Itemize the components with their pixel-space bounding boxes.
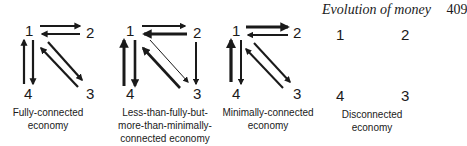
edge-3-to-1 [143, 48, 180, 88]
caption-line: Disconnected [330, 108, 414, 121]
caption-line: economy [218, 119, 318, 132]
node-3: 3 [401, 87, 409, 104]
node-2: 2 [401, 26, 409, 43]
node-2: 2 [193, 24, 201, 41]
node-3: 3 [193, 85, 201, 102]
node-4: 4 [336, 87, 344, 104]
node-2: 2 [293, 24, 301, 41]
node-1: 1 [232, 22, 240, 39]
caption-partially-connected: Less-than-fully-but- more-than-minimally… [112, 106, 218, 145]
caption-line: Less-than-fully-but- [112, 106, 218, 119]
panel-fully-connected: 1 2 3 4 [24, 22, 94, 102]
node-3: 3 [86, 85, 94, 102]
node-1: 1 [336, 26, 344, 43]
caption-fully-connected: Fully-connected economy [3, 106, 93, 132]
panel-partially-connected: 1 2 3 4 [124, 22, 201, 102]
panel-minimally-connected: 1 2 3 4 [231, 22, 301, 102]
caption-minimally-connected: Minimally-connected economy [218, 106, 318, 132]
node-2: 2 [86, 24, 94, 41]
node-3: 3 [293, 85, 301, 102]
node-4: 4 [24, 85, 32, 102]
caption-line: more-than-minimally- [112, 119, 218, 132]
panel-disconnected: 1 2 3 4 [336, 26, 409, 104]
caption-line: economy [3, 119, 93, 132]
node-4: 4 [232, 85, 240, 102]
node-1: 1 [126, 22, 134, 39]
node-4: 4 [126, 85, 134, 102]
caption-line: connected economy [112, 132, 218, 145]
node-1: 1 [25, 22, 33, 39]
caption-line: Minimally-connected [218, 106, 318, 119]
caption-line: economy [330, 121, 414, 134]
caption-disconnected: Disconnected economy [330, 108, 414, 134]
caption-line: Fully-connected [3, 106, 93, 119]
